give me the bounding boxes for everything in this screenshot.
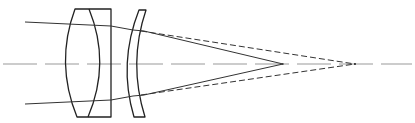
upper-ray-solid [144,31,283,64]
lower-ray-dashed [141,64,355,95]
upper-ray-dashed [141,31,355,64]
focal-point-solid [282,63,284,65]
optical-diagram [0,0,415,123]
upper-ray-incoming [25,22,144,31]
lower-ray-incoming [25,95,144,104]
lower-ray-solid [144,64,283,95]
focal-point-dashed [354,63,356,65]
